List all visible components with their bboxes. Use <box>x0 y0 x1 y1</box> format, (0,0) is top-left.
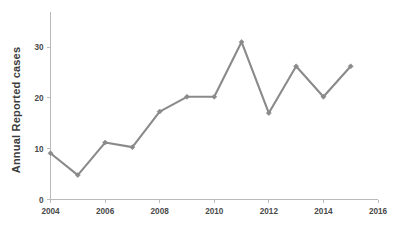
x-tick-label: 2008 <box>151 207 170 216</box>
y-tick-label: 20 <box>34 94 44 103</box>
x-tick-group: 2004200620082010201220142016 <box>41 200 387 216</box>
x-tick-label: 2014 <box>314 207 333 216</box>
y-tick-label: 10 <box>34 145 44 154</box>
series-line-annual-reported-cases <box>51 42 351 175</box>
x-tick-label: 2010 <box>205 207 224 216</box>
axes-group <box>51 12 379 200</box>
line-chart: 0102030 2004200620082010201220142016 Ann… <box>0 0 409 232</box>
y-tick-label: 0 <box>39 196 44 205</box>
x-tick-label: 2012 <box>260 207 279 216</box>
x-tick-label: 2004 <box>41 207 60 216</box>
x-tick-label: 2006 <box>96 207 115 216</box>
y-tick-group: 0102030 <box>34 43 50 205</box>
y-axis-label-text: Annual Reported cases <box>10 47 22 173</box>
chart-canvas: 0102030 2004200620082010201220142016 Ann… <box>0 0 409 232</box>
y-axis-label: Annual Reported cases <box>10 47 22 173</box>
data-series-group <box>48 39 353 177</box>
x-tick-label: 2016 <box>369 207 388 216</box>
y-tick-label: 30 <box>34 43 44 52</box>
